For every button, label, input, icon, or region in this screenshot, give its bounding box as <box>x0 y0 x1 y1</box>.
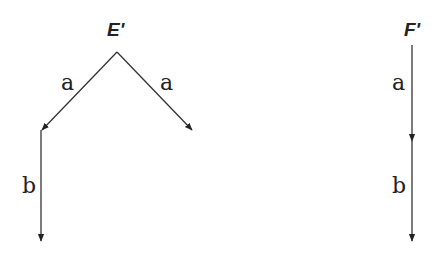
edge-e-left-a <box>42 52 117 130</box>
edge-label-f-b: b <box>392 175 406 197</box>
edge-label-e-left-a: a <box>61 72 74 94</box>
edge-label-e-right-a: a <box>160 72 173 94</box>
diagram-edges <box>0 0 442 254</box>
edge-label-e-b: b <box>22 175 36 197</box>
node-label-e-prime: E' <box>107 20 124 39</box>
edge-e-right-a <box>117 52 192 130</box>
edge-label-f-a: a <box>392 72 405 94</box>
node-label-f-prime: F' <box>404 20 420 39</box>
diagram-canvas: E' a a b F' a b <box>0 0 442 254</box>
